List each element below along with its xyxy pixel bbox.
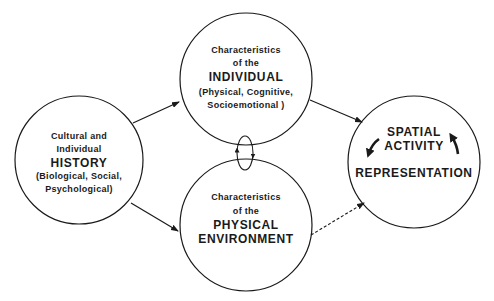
edge-history-environment xyxy=(131,203,178,231)
environment-line2: of the xyxy=(186,205,306,218)
individual-node: Characteristics of the INDIVIDUAL (Physi… xyxy=(186,44,306,112)
spatial-title3: REPRESENTATION xyxy=(354,166,474,180)
edge-individual-spatial xyxy=(310,100,362,122)
history-sub1: (Biological, Social, xyxy=(24,170,134,183)
environment-title1: PHYSICAL xyxy=(186,218,306,232)
individual-sub1: (Physical, Cognitive, xyxy=(186,86,306,99)
individual-line1: Characteristics xyxy=(186,44,306,57)
history-title: HISTORY xyxy=(24,156,134,170)
individual-sub2: Socioemotional ) xyxy=(186,99,306,112)
edge-environment-spatial xyxy=(311,203,364,235)
environment-title2: ENVIRONMENT xyxy=(186,232,306,246)
edge-history-individual xyxy=(133,102,179,123)
environment-line1: Characteristics xyxy=(186,191,306,204)
spatial-title2: ACTIVITY xyxy=(354,139,474,153)
history-line1: Cultural and xyxy=(24,130,134,143)
individual-line2: of the xyxy=(186,57,306,70)
history-sub2: Psychological) xyxy=(24,183,134,196)
individual-title: INDIVIDUAL xyxy=(186,70,306,84)
history-node: Cultural and Individual HISTORY (Biologi… xyxy=(24,130,134,196)
spatial-title1: SPATIAL xyxy=(354,125,474,139)
environment-node: Characteristics of the PHYSICAL ENVIRONM… xyxy=(186,191,306,246)
spatial-node: SPATIAL ACTIVITY REPRESENTATION xyxy=(354,125,474,180)
history-line2: Individual xyxy=(24,143,134,156)
